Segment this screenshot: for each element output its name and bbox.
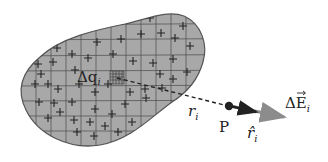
charge-element-label: Δqi — [77, 68, 101, 87]
charged-region — [0, 0, 328, 162]
charge-distribution-diagram: Δqi ri P r̂i ΔEi — [0, 0, 328, 162]
field-label: ΔEi — [285, 91, 310, 114]
charge-element-cell — [110, 71, 124, 84]
svg-text:ΔEi: ΔEi — [285, 94, 310, 114]
unit-vector-label: r̂i — [247, 124, 257, 144]
point-p-label: P — [219, 118, 229, 136]
point-p-dot — [225, 102, 233, 110]
distance-label: ri — [188, 102, 198, 122]
